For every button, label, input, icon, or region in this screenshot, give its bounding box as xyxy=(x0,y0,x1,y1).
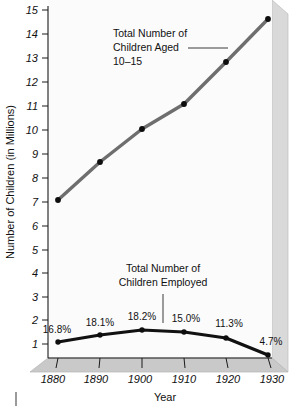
data-point xyxy=(97,332,102,337)
percent-label: 15.0% xyxy=(172,313,200,324)
annotation-text: Total Number of xyxy=(126,262,200,274)
x-tick-label: 1900 xyxy=(128,373,153,385)
y-tick-label: 2 xyxy=(31,314,38,326)
x-tick-label: 1910 xyxy=(172,373,197,385)
y-tick-label: 8 xyxy=(32,172,39,184)
annotation-text: Children Aged xyxy=(113,41,179,53)
x-tick-label: 1930 xyxy=(260,373,285,385)
y-axis-ticks xyxy=(42,10,48,344)
percent-label: 16.8% xyxy=(43,324,71,335)
data-point xyxy=(265,352,270,357)
percent-label: 18.1% xyxy=(86,317,114,328)
data-point xyxy=(55,197,61,203)
y-tick-label: 12 xyxy=(26,76,38,88)
y-tick-label: 4 xyxy=(32,267,38,279)
data-point xyxy=(181,329,186,334)
y-tick-label: 15 xyxy=(26,4,39,16)
y-tick-label: 7 xyxy=(32,196,39,208)
y-tick-label: 10 xyxy=(26,124,39,136)
corner-mark xyxy=(15,392,17,406)
chart-side-panel xyxy=(272,0,288,372)
y-axis-tick-labels: 15 14 13 12 11 10 9 8 7 6 5 4 3 2 1 xyxy=(26,4,39,350)
x-tick-label: 1880 xyxy=(41,373,66,385)
y-axis-title: Number of Children (in Millions) xyxy=(4,105,16,259)
y-tick-label: 6 xyxy=(32,220,39,232)
data-point xyxy=(265,16,271,22)
y-tick-label: 11 xyxy=(27,100,38,112)
chart-container: 15 14 13 12 11 10 9 8 7 6 5 4 3 2 1 xyxy=(0,0,306,409)
x-axis-title: Year xyxy=(154,391,177,403)
annotation-text: 10–15 xyxy=(113,55,142,67)
x-tick-label: 1920 xyxy=(216,373,241,385)
x-axis-tick-labels: 1880 1890 1900 1910 1920 1930 xyxy=(41,373,285,385)
y-tick-label: 14 xyxy=(26,28,38,40)
data-point xyxy=(223,59,229,65)
annotation-text: Children Employed xyxy=(119,276,208,288)
line-chart-svg: 15 14 13 12 11 10 9 8 7 6 5 4 3 2 1 xyxy=(0,0,306,409)
data-point xyxy=(223,335,228,340)
data-point xyxy=(139,327,144,332)
chart-floor xyxy=(30,358,288,372)
percent-label: 11.3% xyxy=(215,318,243,329)
y-tick-label: 9 xyxy=(32,148,38,160)
percent-label: 18.2% xyxy=(128,311,156,322)
annotation-text: Total Number of xyxy=(113,27,187,39)
y-tick-label: 5 xyxy=(32,244,39,256)
data-point xyxy=(139,126,145,132)
y-tick-label: 1 xyxy=(32,338,38,350)
x-tick-label: 1890 xyxy=(84,373,109,385)
y-tick-label: 3 xyxy=(32,291,39,303)
y-tick-label: 13 xyxy=(26,52,39,64)
data-point xyxy=(97,159,103,165)
percent-label: 4.7% xyxy=(260,336,283,347)
data-point xyxy=(181,101,187,107)
data-point xyxy=(55,339,60,344)
